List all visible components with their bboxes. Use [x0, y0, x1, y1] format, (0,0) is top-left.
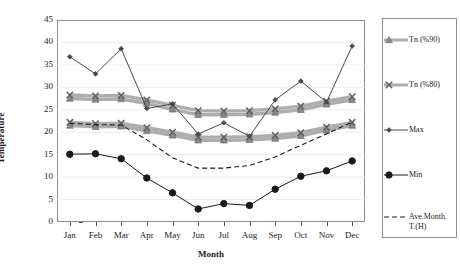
circle-marker	[386, 172, 392, 178]
x-tick-mark	[224, 222, 225, 226]
x-tick-mark	[147, 222, 148, 226]
legend-marker-none-icon	[383, 210, 409, 224]
x-tick-mark	[70, 222, 71, 226]
x-axis-ticks: JanFebMarAprMayJunJulAugSepOctNovDec	[57, 222, 365, 244]
circle-marker	[349, 158, 355, 164]
legend-item: Ave.Month. T.(H)	[383, 210, 458, 231]
circle-marker	[169, 190, 175, 196]
legend-marker-triangle-icon	[383, 33, 409, 47]
circle-marker	[144, 175, 150, 181]
circle-marker	[67, 151, 73, 157]
legend-marker-diamond-icon	[383, 123, 409, 137]
circle-marker	[246, 202, 252, 208]
y-tick-label: 0	[27, 217, 53, 226]
legend-item: Tn (%90)	[383, 33, 458, 47]
x-tick-mark	[96, 222, 97, 226]
x-tick-mark	[301, 222, 302, 226]
legend-label: Ave.Month. T.(H)	[409, 210, 447, 231]
legend-item: Min	[383, 168, 458, 182]
x-tick-mark	[327, 222, 328, 226]
x-tick-mark	[250, 222, 251, 226]
x-tick-mark	[275, 222, 276, 226]
circle-marker	[118, 156, 124, 162]
y-tick-label: 35	[27, 60, 53, 69]
y-tick-label: 15	[27, 150, 53, 159]
x-tick-mark	[198, 222, 199, 226]
legend-item: Tn (%80)	[383, 78, 458, 92]
circle-marker	[298, 173, 304, 179]
diamond-marker	[222, 120, 227, 125]
y-tick-label: 30	[27, 82, 53, 91]
legend-label: Min	[409, 168, 422, 180]
legend-label: Max	[409, 123, 424, 135]
y-axis-title: Temperature	[0, 78, 6, 198]
x-tick-mark	[352, 222, 353, 226]
y-tick-label: 40	[27, 37, 53, 46]
plot-area	[57, 20, 365, 222]
legend-marker-circle-icon	[383, 168, 409, 182]
circle-marker	[92, 151, 98, 157]
series-min	[67, 151, 356, 213]
circle-marker	[195, 206, 201, 212]
y-tick-label: 45	[27, 15, 53, 24]
x-tick-mark	[121, 222, 122, 226]
circle-marker	[323, 168, 329, 174]
y-tick-label: 20	[27, 127, 53, 136]
y-tick-label: 10	[27, 172, 53, 181]
diamond-marker	[350, 44, 355, 49]
legend-label: Tn (%80)	[409, 78, 440, 90]
series-line	[70, 154, 352, 209]
x-tick-mark	[173, 222, 174, 226]
circle-marker	[221, 200, 227, 206]
series-tn-90-upper	[66, 95, 355, 117]
y-tick-label: 5	[27, 195, 53, 204]
temperature-line-chart: Temperature 051015202530354045 JanFebMar…	[0, 0, 460, 280]
series-tn-80-upper	[67, 92, 356, 115]
legend-item: Max	[383, 123, 458, 137]
legend-marker-cross-icon	[383, 78, 409, 92]
y-axis-ticks: 051015202530354045	[26, 20, 53, 222]
chart-legend: Tn (%90)Tn (%80)MaxMinAve.Month. T.(H)	[382, 18, 457, 238]
x-axis-title: Month	[57, 249, 365, 259]
legend-label: Tn (%90)	[409, 33, 440, 45]
y-tick-label: 25	[27, 105, 53, 114]
diamond-marker	[387, 128, 392, 133]
plot-canvas	[57, 20, 365, 222]
x-tick-label-dec: Dec	[335, 230, 369, 240]
series-tn-80-lower	[67, 119, 356, 140]
circle-marker	[272, 186, 278, 192]
